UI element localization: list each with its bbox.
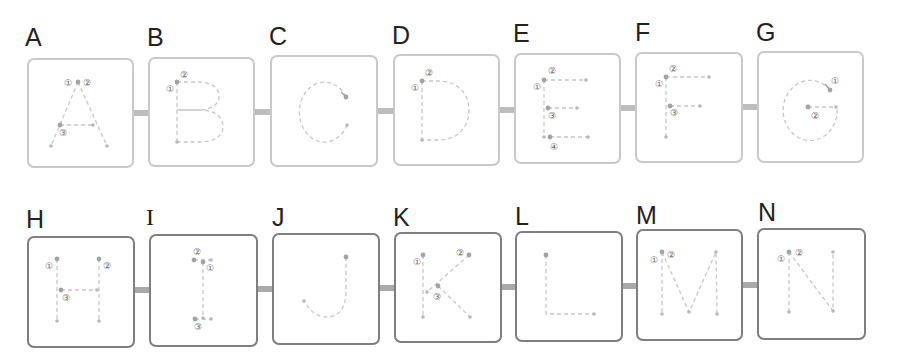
tracing-card-n[interactable]: ① ②: [757, 228, 866, 340]
letter-a-tracing-guide: ① ② ③: [27, 58, 134, 168]
letter-h-tracing-guide: ① ② ③: [27, 236, 135, 348]
stroke-end-dot: [209, 258, 213, 262]
stroke-end-dot: [586, 135, 590, 139]
letter-label-n: N: [758, 200, 776, 225]
stroke-start-dot: [192, 258, 197, 263]
step-marker: ②: [548, 66, 556, 76]
step-marker: ③: [670, 108, 678, 118]
letter-label-c: C: [269, 24, 287, 49]
tracing-card-m[interactable]: ① ②: [636, 229, 743, 341]
tracing-card-c[interactable]: [270, 55, 378, 167]
stroke-end-dot: [468, 315, 472, 319]
step-marker: ①: [533, 82, 541, 92]
stroke-end-dot: [97, 319, 101, 323]
connector-bar: [257, 286, 273, 292]
stroke-end-dot: [715, 312, 719, 316]
step-marker: ②: [83, 78, 91, 88]
tracing-card-l[interactable]: [515, 231, 623, 342]
letter-g-tracing-guide: ① ②: [757, 51, 864, 163]
connector-bar: [134, 287, 150, 293]
step-marker: ②: [425, 68, 433, 78]
step-marker: ②: [193, 247, 201, 257]
stroke-start-dot: [664, 75, 669, 80]
letter-c-tracing-guide: [270, 55, 378, 167]
stroke-end-dot: [345, 123, 349, 127]
stroke-end-dot: [421, 315, 425, 319]
step-marker: ①: [777, 254, 785, 264]
step-marker: ①: [64, 78, 72, 88]
dashed-trace-stroke: [422, 81, 469, 140]
tracing-card-f[interactable]: ① ② ③: [635, 52, 743, 163]
letter-label-j: J: [272, 205, 285, 230]
tracing-card-h[interactable]: ① ② ③: [27, 236, 135, 348]
letter-k-tracing-guide: ① ② ③: [394, 232, 502, 343]
step-marker: ①: [655, 79, 663, 89]
stroke-end-dot: [95, 288, 99, 292]
step-marker: ②: [811, 111, 819, 121]
stroke-end-dot: [664, 135, 668, 139]
step-marker: ①: [650, 255, 658, 265]
connector-bar: [622, 283, 637, 289]
stroke-start-dot: [548, 135, 553, 140]
letter-label-b: B: [147, 25, 164, 50]
connector-bar: [377, 108, 394, 114]
connector-bar: [133, 110, 149, 116]
letter-e-tracing-guide: ① ② ③ ④: [514, 53, 621, 164]
stroke-start-dot: [175, 80, 180, 85]
tracing-card-g[interactable]: ① ②: [757, 51, 864, 163]
stroke-start-dot: [542, 78, 547, 83]
stroke-end-dot: [420, 138, 424, 142]
connector-bar: [742, 282, 758, 288]
dashed-trace-stroke: [427, 255, 469, 292]
dashed-trace-stroke: [789, 252, 833, 311]
connector-bar: [254, 109, 271, 115]
letter-f-tracing-guide: ① ② ③: [635, 52, 743, 163]
dashed-trace-stroke: [546, 255, 594, 314]
step-marker: ②: [180, 70, 188, 80]
tracing-card-e[interactable]: ① ② ③ ④: [514, 53, 621, 164]
stroke-end-dot: [660, 312, 664, 316]
letter-label-l: L: [515, 204, 529, 229]
connector-bar: [499, 107, 515, 113]
stroke-end-dot: [542, 135, 546, 139]
stroke-start-dot: [344, 95, 349, 100]
step-marker: ③: [433, 292, 441, 302]
tracing-card-d[interactable]: ① ②: [393, 54, 500, 166]
stroke-start-dot: [828, 88, 833, 93]
step-marker: ②: [456, 248, 464, 258]
letter-label-g: G: [756, 20, 775, 45]
stroke-end-dot: [707, 75, 711, 79]
letter-label-d: D: [392, 23, 410, 48]
step-marker: ①: [831, 76, 839, 86]
letter-label-k: K: [393, 205, 410, 230]
dashed-trace-stroke: [299, 82, 347, 142]
stroke-start-dot: [344, 255, 349, 260]
stroke-end-dot: [55, 319, 59, 323]
stroke-start-dot: [58, 123, 63, 128]
stroke-start-dot: [97, 257, 102, 262]
stroke-end-dot: [175, 140, 179, 144]
letter-m-tracing-guide: ① ②: [636, 229, 743, 341]
step-marker: ②: [667, 250, 675, 260]
tracing-card-b[interactable]: ① ②: [148, 57, 255, 167]
stroke-end-dot: [831, 250, 835, 254]
stroke-start-dot: [787, 250, 792, 255]
stroke-start-dot: [193, 317, 198, 322]
letter-l-tracing-guide: [515, 231, 623, 342]
tracing-card-k[interactable]: ① ② ③: [394, 232, 502, 343]
letter-label-a: A: [25, 25, 42, 50]
tracing-card-a[interactable]: ① ② ③: [27, 58, 134, 168]
tracing-card-i[interactable]: ① ② ③: [149, 234, 258, 347]
stroke-end-dot: [91, 123, 95, 127]
step-marker: ①: [45, 261, 53, 271]
step-marker: ②: [795, 248, 803, 258]
stroke-start-dot: [59, 288, 64, 293]
letter-label-e: E: [513, 21, 530, 46]
connector-bar: [742, 104, 757, 110]
letter-i-tracing-guide: ① ② ③: [149, 234, 258, 347]
step-marker: ②: [669, 64, 677, 74]
tracing-card-j[interactable]: [272, 233, 380, 345]
step-marker: ③: [62, 293, 70, 303]
connector-bar: [379, 285, 395, 291]
dashed-trace-stroke: [304, 257, 346, 317]
